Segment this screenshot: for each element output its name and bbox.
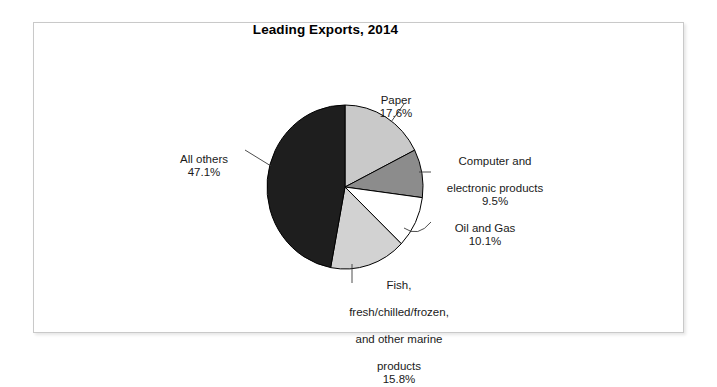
slice-label-fish-line3: and other marine	[356, 333, 443, 345]
slice-value-oil: 10.1%	[430, 235, 540, 249]
slice-value-all-others: 47.1%	[152, 166, 256, 180]
slice-label-fish-line4: products	[377, 360, 421, 372]
slice-label-paper-text: Paper	[381, 94, 412, 106]
slice-label-all-others-text: All others	[180, 153, 228, 165]
slice-label-computer-line1: Computer and	[459, 155, 532, 167]
slice-label-fish: Fish, fresh/chilled/frozen, and other ma…	[333, 265, 465, 387]
slice-label-oil-text: Oil and Gas	[455, 222, 516, 234]
slice-label-paper: Paper 17.6%	[348, 80, 444, 134]
pie-slice-all-others[interactable]	[267, 105, 345, 268]
slice-label-all-others: All others 47.1%	[152, 139, 256, 193]
slice-label-fish-line1: Fish,	[387, 279, 412, 291]
slice-label-computer-line2: electronic products	[447, 182, 544, 194]
slice-label-fish-line2: fresh/chilled/frozen,	[349, 306, 449, 318]
slice-value-paper: 17.6%	[348, 107, 444, 121]
slice-value-fish: 15.8%	[333, 373, 465, 387]
slice-value-computer: 9.5%	[432, 195, 558, 209]
slice-label-oil-and-gas: Oil and Gas 10.1%	[430, 208, 540, 262]
